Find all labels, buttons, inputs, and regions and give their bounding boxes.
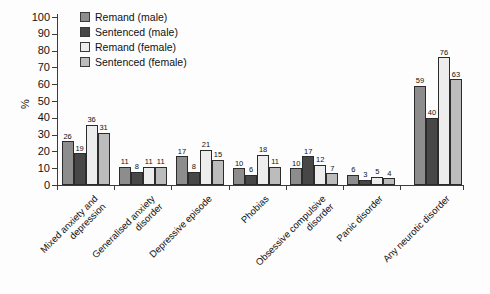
bar-value-label: 18 bbox=[248, 145, 278, 154]
bar bbox=[414, 86, 426, 185]
legend-item: Sentenced (male) bbox=[80, 24, 187, 39]
x-tick bbox=[343, 185, 344, 190]
bar bbox=[290, 168, 302, 185]
x-tick bbox=[229, 185, 230, 190]
legend-swatch-sentenced-male bbox=[80, 27, 90, 37]
bar bbox=[359, 180, 371, 185]
y-tick-label: 70 bbox=[20, 61, 50, 74]
bar-value-label: 31 bbox=[89, 123, 119, 132]
legend-label: Remand (female) bbox=[95, 41, 176, 53]
bar bbox=[269, 167, 281, 185]
bar bbox=[383, 178, 395, 185]
y-tick-label: 80 bbox=[20, 44, 50, 57]
y-tick-label: 40 bbox=[20, 111, 50, 124]
bar bbox=[131, 172, 143, 185]
bar bbox=[450, 79, 462, 185]
bar bbox=[188, 172, 200, 185]
legend-item: Sentenced (female) bbox=[80, 54, 187, 69]
x-tick bbox=[171, 185, 172, 190]
x-tick bbox=[114, 185, 115, 190]
y-tick-label: 30 bbox=[20, 128, 50, 141]
y-tick bbox=[52, 151, 57, 152]
x-tick bbox=[57, 185, 58, 190]
y-tick-label: 20 bbox=[20, 145, 50, 158]
bar bbox=[155, 167, 167, 185]
y-tick bbox=[52, 118, 57, 119]
y-axis-label: % bbox=[19, 95, 35, 113]
y-tick bbox=[52, 168, 57, 169]
y-axis bbox=[57, 14, 58, 186]
y-tick-label: 0 bbox=[20, 179, 50, 192]
bar bbox=[426, 118, 438, 185]
legend-swatch-remand-female bbox=[80, 42, 90, 52]
bar-value-label: 76 bbox=[429, 48, 459, 57]
y-tick bbox=[52, 17, 57, 18]
x-axis bbox=[57, 185, 464, 186]
y-tick bbox=[52, 67, 57, 68]
bar bbox=[98, 133, 110, 185]
y-tick bbox=[52, 84, 57, 85]
legend-swatch-remand-male bbox=[80, 12, 90, 22]
x-tick bbox=[400, 185, 401, 190]
bar bbox=[143, 167, 155, 185]
x-tick bbox=[286, 185, 287, 190]
bar-value-label: 4 bbox=[374, 169, 404, 178]
bar bbox=[326, 173, 338, 185]
legend-item: Remand (female) bbox=[80, 39, 187, 54]
legend-label: Sentenced (male) bbox=[95, 26, 178, 38]
y-tick-label: 100 bbox=[20, 11, 50, 24]
x-category-label: Any neurotic disorder bbox=[381, 193, 453, 265]
bar bbox=[371, 177, 383, 185]
y-tick-label: 10 bbox=[20, 162, 50, 175]
legend-item: Remand (male) bbox=[80, 9, 187, 24]
legend-label: Remand (male) bbox=[95, 11, 167, 23]
x-category-label: Phobias bbox=[239, 193, 271, 225]
bar-value-label: 63 bbox=[441, 70, 471, 79]
y-tick bbox=[52, 51, 57, 52]
bar-value-label: 26 bbox=[53, 132, 83, 141]
plot-area: 010203040506070809010026193631Mixed anxi… bbox=[0, 0, 490, 294]
bar bbox=[86, 125, 98, 185]
bar-chart-figure: 010203040506070809010026193631Mixed anxi… bbox=[0, 0, 490, 294]
bar bbox=[74, 153, 86, 185]
bar-value-label: 59 bbox=[405, 76, 435, 85]
bar-value-label: 11 bbox=[146, 157, 176, 166]
y-tick-label: 90 bbox=[20, 27, 50, 40]
y-tick-label: 60 bbox=[20, 78, 50, 91]
bar-value-label: 21 bbox=[191, 140, 221, 149]
legend-swatch-sentenced-female bbox=[80, 57, 90, 67]
bar bbox=[212, 160, 224, 185]
y-tick bbox=[52, 34, 57, 35]
x-tick bbox=[463, 185, 464, 190]
legend-label: Sentenced (female) bbox=[95, 56, 187, 68]
x-category-label: Panic disorder bbox=[334, 193, 385, 244]
legend: Remand (male) Sentenced (male) Remand (f… bbox=[80, 9, 187, 69]
bar bbox=[245, 175, 257, 185]
y-tick bbox=[52, 101, 57, 102]
